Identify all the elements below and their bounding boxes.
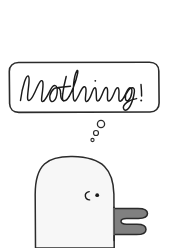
letter-i-dot: [94, 80, 96, 82]
bubble-small-icon: [91, 138, 94, 141]
character-body: [35, 157, 114, 248]
bubble-medium-icon: [94, 131, 99, 136]
thought-box-group: [9, 62, 159, 112]
period-dot: [140, 99, 142, 101]
period-mark: [141, 85, 142, 97]
bubble-large-icon: [97, 120, 104, 127]
comic-illustration: [0, 0, 171, 248]
eye-dot-icon: [95, 193, 99, 197]
comic-panel: Nothing.: [0, 0, 171, 248]
